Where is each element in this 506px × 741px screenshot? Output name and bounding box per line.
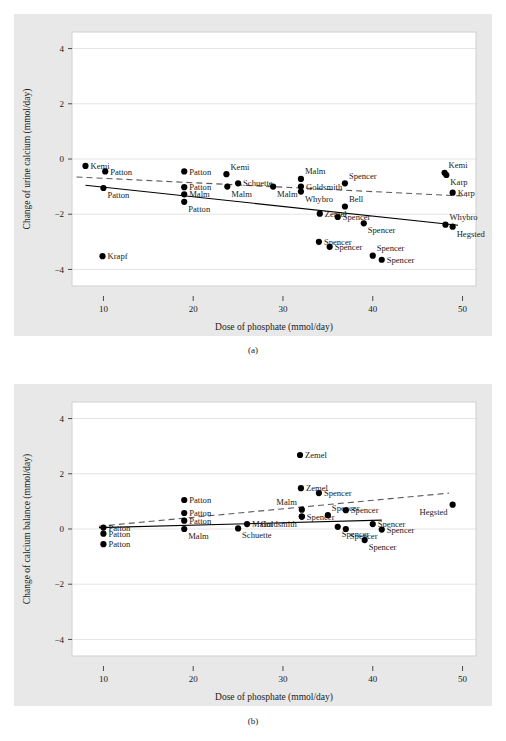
data-point: [181, 184, 187, 190]
data-point: [342, 180, 348, 186]
x-axis-title: Dose of phosphate (mmol/day): [215, 692, 333, 703]
data-point: [181, 191, 187, 197]
data-point: [327, 244, 333, 250]
data-point: [235, 180, 241, 186]
data-point-label: Zemel: [305, 450, 328, 460]
scatter-plot-a: 420−2−41020304050Dose of phosphate (mmol…: [14, 14, 492, 336]
data-point: [370, 521, 376, 527]
data-point-label: Spencer: [324, 488, 352, 498]
x-axis-tick-label: 40: [368, 304, 378, 314]
data-point-label: Patton: [189, 167, 212, 177]
y-axis-tick-label: 0: [60, 524, 65, 534]
data-point-label: Malm: [277, 189, 298, 199]
data-point: [99, 253, 105, 259]
data-point-label: Patton: [189, 495, 212, 505]
y-axis-tick-label: 2: [60, 99, 65, 109]
data-point: [316, 490, 322, 496]
data-point: [181, 510, 187, 516]
data-point: [235, 525, 241, 531]
x-axis-tick-label: 30: [278, 304, 288, 314]
data-point: [343, 526, 349, 532]
data-point-label: Karp: [458, 188, 475, 198]
y-axis-tick-label: 0: [60, 154, 65, 164]
data-point: [325, 512, 331, 518]
x-axis-tick-label: 30: [278, 674, 288, 684]
y-axis-tick-label: −4: [54, 635, 64, 645]
data-point-label: Patton: [107, 190, 130, 200]
data-point-label: Patton: [188, 204, 211, 214]
y-axis-tick-label: −4: [54, 265, 64, 275]
data-point-label: Spencer: [343, 212, 371, 222]
y-axis-tick-label: −2: [54, 579, 64, 589]
x-axis-tick-label: 10: [99, 674, 109, 684]
data-point: [443, 172, 449, 178]
data-point-label: Spencer: [335, 242, 363, 252]
data-point-label: Krapf: [108, 251, 128, 261]
data-point-label: Hegsted: [457, 229, 486, 239]
data-point-label: Bell: [349, 194, 364, 204]
data-point: [343, 507, 349, 513]
data-point: [299, 507, 305, 513]
data-point: [298, 188, 304, 194]
data-point: [317, 211, 323, 217]
x-axis-tick-label: 20: [189, 674, 199, 684]
data-point-label: Patton: [189, 516, 212, 526]
data-point: [223, 171, 229, 177]
data-point: [297, 452, 303, 458]
data-point: [244, 521, 250, 527]
data-point-label: Malm: [276, 497, 297, 507]
data-point: [370, 253, 376, 259]
data-point-label: Malm: [305, 166, 326, 176]
data-point: [82, 163, 88, 169]
data-point: [450, 224, 456, 230]
scatter-plot-b: 420−2−41020304050Dose of phosphate (mmol…: [14, 384, 492, 706]
data-point-label: Spencer: [368, 225, 396, 235]
data-point: [100, 185, 106, 191]
data-point-label: Spencer: [377, 243, 405, 253]
data-point-label: Malm: [188, 531, 209, 541]
data-point-label: Malm: [231, 189, 252, 199]
data-point: [335, 214, 341, 220]
data-point: [379, 257, 385, 263]
data-point: [100, 531, 106, 537]
data-point-label: Spencer: [387, 255, 415, 265]
x-axis-title: Dose of phosphate (mmol/day): [215, 322, 333, 333]
data-point: [181, 526, 187, 532]
data-point: [181, 518, 187, 524]
data-point-label: Whybro: [449, 212, 477, 222]
data-point: [100, 525, 106, 531]
data-point: [316, 239, 322, 245]
data-point-label: Spencer: [387, 525, 415, 535]
data-point-label: Patton: [108, 539, 131, 549]
x-axis-tick-label: 40: [368, 674, 378, 684]
x-axis-tick-label: 20: [189, 304, 199, 314]
data-point: [299, 513, 305, 519]
data-point-label: Spencer: [351, 505, 379, 515]
chart-panel-b: 420−2−41020304050Dose of phosphate (mmol…: [14, 384, 492, 706]
data-point-label: Schuette: [242, 530, 272, 540]
x-axis-tick-label: 10: [99, 304, 109, 314]
y-axis-tick-label: 4: [60, 44, 65, 54]
data-point: [450, 502, 456, 508]
data-point: [224, 184, 230, 190]
data-point: [379, 526, 385, 532]
data-point-label: Whybro: [305, 194, 333, 204]
x-axis-tick-label: 50: [458, 674, 468, 684]
chart-panel-a: 420−2−41020304050Dose of phosphate (mmol…: [14, 14, 492, 336]
data-point: [298, 176, 304, 182]
y-axis-tick-label: −2: [54, 209, 64, 219]
data-point-label: Malm: [189, 189, 210, 199]
panel-b-caption: (b): [0, 716, 506, 726]
data-point: [442, 222, 448, 228]
data-point: [361, 220, 367, 226]
data-point-label: Patton: [110, 167, 133, 177]
y-axis-title: Change of calcium balance (mmol/day): [22, 454, 33, 604]
data-point: [102, 168, 108, 174]
figure-container: 420−2−41020304050Dose of phosphate (mmol…: [0, 0, 506, 741]
data-point: [362, 537, 368, 543]
data-point-label: Goldsmith: [261, 519, 298, 529]
y-axis-tick-label: 4: [60, 414, 65, 424]
panel-a-caption: (a): [0, 345, 506, 355]
data-point: [335, 524, 341, 530]
data-point: [298, 485, 304, 491]
